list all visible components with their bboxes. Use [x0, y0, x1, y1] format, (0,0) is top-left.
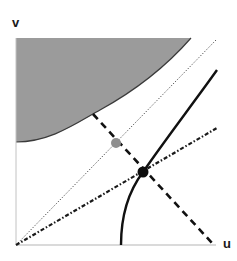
gray-point	[111, 138, 121, 148]
y-axis-label: v	[12, 16, 19, 29]
black-point	[138, 167, 149, 178]
x-axis-label: u	[223, 237, 231, 250]
solid-curve	[121, 70, 217, 245]
dashed-line	[93, 114, 212, 243]
diagram-canvas	[0, 0, 237, 261]
diagram-figure: v u	[0, 0, 237, 261]
